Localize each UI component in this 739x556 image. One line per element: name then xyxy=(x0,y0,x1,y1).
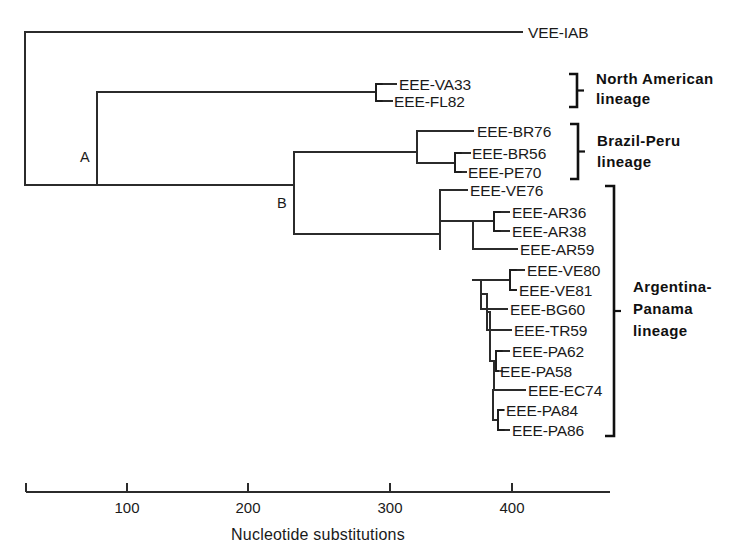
tip-label-eee-pe70: EEE-PE70 xyxy=(468,164,542,181)
group-label-group-north-american-line1: North American xyxy=(596,70,714,87)
group-bracket-group-north-american xyxy=(569,74,577,107)
tip-label-eee-pa86: EEE-PA86 xyxy=(512,422,584,439)
node-label-node-b: B xyxy=(277,195,287,211)
group-label-group-brazil-peru-line2: lineage xyxy=(597,153,652,170)
tip-label-eee-pa62: EEE-PA62 xyxy=(512,343,584,360)
clade-bracket-bracket-ar xyxy=(494,212,500,231)
clade-bracket-bracket-ve xyxy=(510,270,516,290)
internal-node-labels: AB xyxy=(80,149,287,211)
tip-label-eee-ve81: EEE-VE81 xyxy=(519,282,592,299)
group-label-group-argentina-panama-line1: Argentina- xyxy=(633,278,712,295)
group-label-group-argentina-panama-line3: lineage xyxy=(633,322,688,339)
tip-label-eee-pa84: EEE-PA84 xyxy=(506,402,579,419)
scale-tick-label-200: 200 xyxy=(235,499,260,516)
clade-bracket-bracket-pa84 xyxy=(498,410,504,430)
tip-label-eee-fl82: EEE-FL82 xyxy=(394,93,465,110)
clade-bracket-bracket-brpe xyxy=(455,153,461,172)
tip-label-eee-bg60: EEE-BG60 xyxy=(510,301,585,318)
branch-connectors xyxy=(25,92,510,420)
clade-bracket-bracket-na xyxy=(376,84,382,101)
tip-label-vee-iab: VEE-IAB xyxy=(528,24,588,41)
scale-tick-label-300: 300 xyxy=(377,499,402,516)
tip-label-eee-va33: EEE-VA33 xyxy=(399,76,471,93)
tip-label-eee-br56: EEE-BR56 xyxy=(472,145,546,162)
tip-label-eee-ar36: EEE-AR36 xyxy=(512,204,586,221)
tip-label-eee-ve76: EEE-VE76 xyxy=(470,182,543,199)
tip-label-eee-pa58: EEE-PA58 xyxy=(500,363,572,380)
scale-bar-axis: 100200300400Nucleotide substitutions xyxy=(26,483,610,543)
tip-label-eee-ve80: EEE-VE80 xyxy=(527,262,601,279)
tip-label-eee-br76: EEE-BR76 xyxy=(477,123,551,140)
group-bracket-group-brazil-peru xyxy=(570,124,578,179)
tree-canvas: VEE-IABEEE-VA33EEE-FL82EEE-BR76EEE-BR56E… xyxy=(0,0,739,556)
scale-tick-label-400: 400 xyxy=(499,499,524,516)
node-label-node-a: A xyxy=(80,149,90,165)
tip-label-eee-ec74: EEE-EC74 xyxy=(528,382,603,399)
phylogenetic-tree-figure: VEE-IABEEE-VA33EEE-FL82EEE-BR76EEE-BR56E… xyxy=(0,0,739,556)
group-label-group-brazil-peru-line1: Brazil-Peru xyxy=(597,132,681,149)
group-bracket-group-argentina-panama xyxy=(605,186,614,436)
scale-tick-label-100: 100 xyxy=(114,499,139,516)
group-label-group-north-american-line2: lineage xyxy=(596,90,651,107)
group-label-group-argentina-panama-line2: Panama xyxy=(633,300,693,317)
scale-axis-title: Nucleotide substitutions xyxy=(231,526,405,543)
tip-label-eee-tr59: EEE-TR59 xyxy=(514,322,587,339)
tip-label-eee-ar59: EEE-AR59 xyxy=(520,241,594,258)
tip-label-eee-ar38: EEE-AR38 xyxy=(512,223,586,240)
